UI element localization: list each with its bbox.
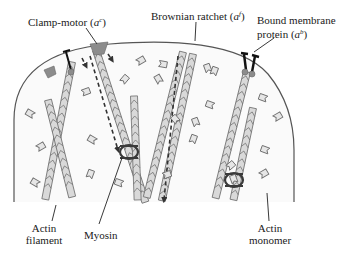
label-clamp-motor: Clamp-motor (ac) xyxy=(28,14,106,28)
label-actin-filament: Actin filament xyxy=(24,222,64,246)
label-actin-monomer: Actin monomer xyxy=(248,222,292,246)
label-myosin: Myosin xyxy=(84,229,118,241)
label-bound-membrane-protein: Bound membrane protein (ab) xyxy=(257,14,336,40)
label-brownian-ratchet: Brownian ratchet (af) xyxy=(151,8,245,22)
